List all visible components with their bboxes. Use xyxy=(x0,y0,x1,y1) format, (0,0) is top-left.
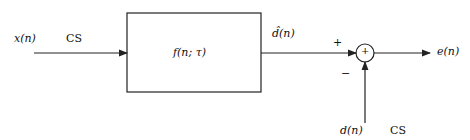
desired-channel-label: CS xyxy=(390,124,406,137)
estimate-label: d̂(n) xyxy=(272,27,295,40)
plus-sign: + xyxy=(333,36,342,49)
block-diagram-canvas xyxy=(0,0,470,140)
minus-sign: − xyxy=(341,67,350,80)
block-label: f(n; τ) xyxy=(173,46,206,59)
input-channel-label: CS xyxy=(66,32,82,45)
desired-label: d(n) xyxy=(340,124,363,137)
output-label: e(n) xyxy=(437,45,459,58)
sum-symbol: + xyxy=(361,45,369,56)
input-label: x(n) xyxy=(14,32,36,45)
